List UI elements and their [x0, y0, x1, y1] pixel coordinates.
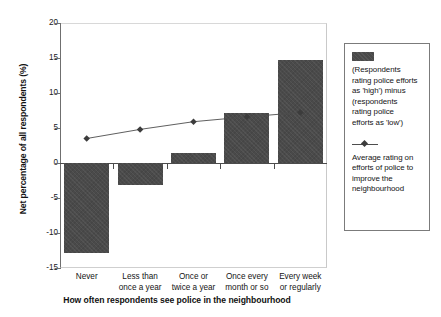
line-series: [60, 23, 327, 268]
y-tick-mark: [55, 268, 61, 269]
x-category-line: Less than: [111, 272, 168, 283]
x-category-label: Never: [58, 272, 115, 283]
x-category-line: month or so: [218, 283, 275, 294]
legend-line-line: efforts of police to: [352, 163, 424, 174]
y-tick-label: 0: [0, 159, 58, 167]
y-tick-label: 15: [0, 54, 58, 62]
line-marker: [244, 114, 251, 121]
legend-bar-line: (respondents: [352, 97, 424, 108]
x-category-label: Once everymonth or so: [218, 272, 275, 293]
x-category-line: Once or: [165, 272, 222, 283]
legend-bar-line: as 'high') minus: [352, 86, 424, 97]
y-tick-label: -10: [0, 229, 58, 237]
x-category-line: Never: [58, 272, 115, 283]
legend-bar-line: (Respondents: [352, 65, 424, 76]
x-category-line: Every week: [272, 272, 329, 283]
legend: (Respondentsrating police effortsas 'hig…: [344, 43, 430, 231]
line-marker-icon: [352, 139, 378, 149]
legend-bar-line: efforts as 'low'): [352, 118, 424, 129]
legend-line-line: improve the: [352, 174, 424, 185]
x-category-label: Every weekor regularly: [272, 272, 329, 293]
bar-swatch-icon: [352, 52, 374, 61]
line-marker: [137, 126, 144, 133]
y-tick-label: 20: [0, 19, 58, 27]
x-category-line: Once every: [218, 272, 275, 283]
legend-line-label: Average rating onefforts of police toimp…: [352, 153, 424, 195]
y-tick-label: 5: [0, 124, 58, 132]
x-category-label: Once ortwice a year: [165, 272, 222, 293]
line-marker: [297, 109, 304, 116]
legend-bar-line: rating police efforts: [352, 76, 424, 87]
y-axis-title: Net percentage of all respondents (%): [18, 44, 28, 234]
x-category-line: twice a year: [165, 283, 222, 294]
y-tick-label: -15: [0, 264, 58, 272]
x-axis-title: How often respondents see police in the …: [22, 295, 332, 305]
line-path: [87, 113, 301, 139]
legend-line-line: neighbourhood: [352, 184, 424, 195]
x-category-line: or regularly: [272, 283, 329, 294]
legend-bar-line: rating police: [352, 107, 424, 118]
line-marker: [190, 118, 197, 125]
legend-line-line: Average rating on: [352, 153, 424, 164]
legend-bar-label: (Respondentsrating police effortsas 'hig…: [352, 65, 424, 129]
x-category-label: Less thanonce a year: [111, 272, 168, 293]
y-tick-label: -5: [0, 194, 58, 202]
x-category-line: once a year: [111, 283, 168, 294]
chart-figure: 20151050-5-10-15 Net percentage of all r…: [0, 0, 441, 317]
line-marker: [83, 135, 90, 142]
y-tick-label: 10: [0, 89, 58, 97]
